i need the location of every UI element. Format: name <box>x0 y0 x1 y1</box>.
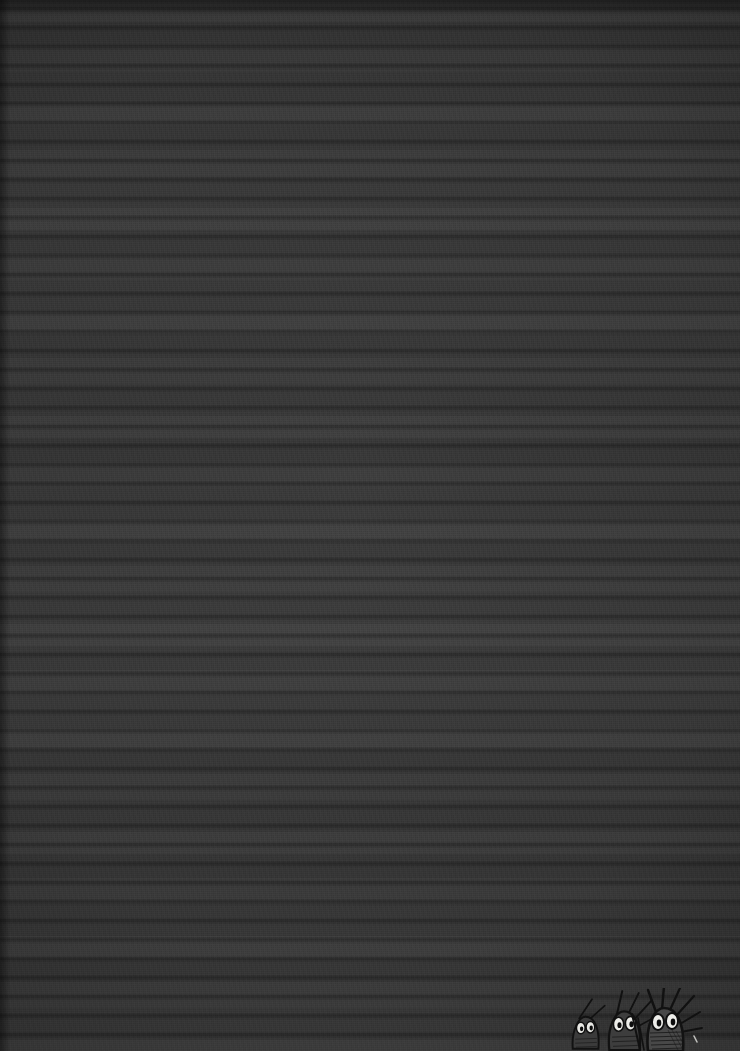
antenna-spike <box>680 1012 700 1024</box>
antenna-spike <box>633 1000 651 1020</box>
eye-pupil <box>580 1026 583 1031</box>
left-edge-shadow <box>0 0 10 1051</box>
highlight-fleck <box>694 1036 697 1042</box>
antenna-spike <box>579 999 592 1018</box>
creature-body <box>573 1017 599 1049</box>
antenna-spike <box>662 988 664 1010</box>
antenna-spike <box>670 988 680 1010</box>
eye-pupil <box>590 1026 593 1031</box>
creature-left <box>573 999 605 1049</box>
creature-group <box>558 988 740 1051</box>
image-canvas <box>0 0 740 1051</box>
eye-pupil <box>657 1020 662 1027</box>
antenna-spike <box>681 1028 702 1032</box>
antenna-spike <box>648 990 656 1012</box>
top-edge-shadow <box>0 0 740 16</box>
eye-pupil <box>671 1019 676 1026</box>
eye-pupil <box>617 1022 621 1028</box>
creature-right <box>632 988 702 1051</box>
scanline-noise-layer <box>0 0 740 1051</box>
antenna-spike <box>676 996 694 1016</box>
